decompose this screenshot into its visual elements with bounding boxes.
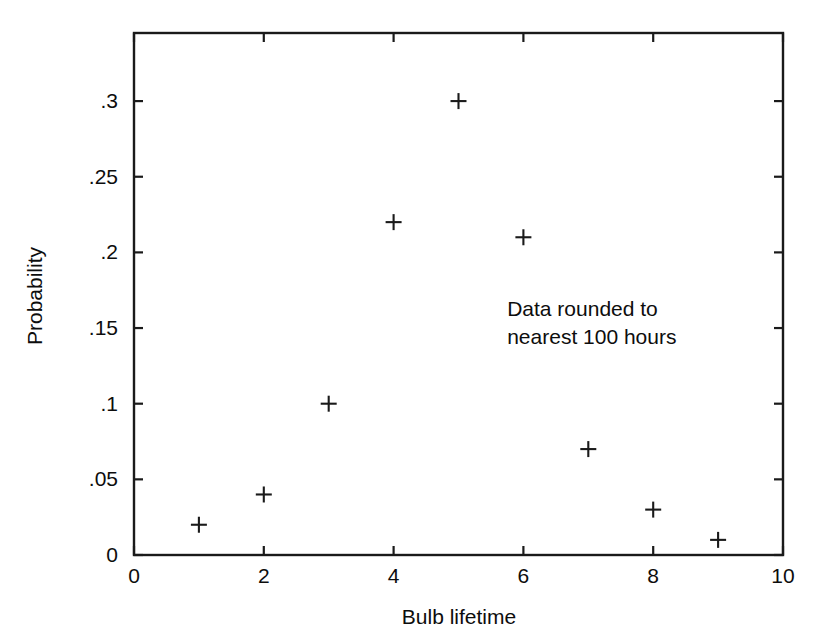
x-tick-label: 10 [771, 564, 794, 587]
annotation-line-2: nearest 100 hours [507, 325, 676, 348]
x-axis-title: Bulb lifetime [402, 605, 516, 628]
y-tick-label: .1 [100, 392, 118, 415]
y-axis-title: Probability [23, 246, 46, 345]
x-tick-label: 4 [388, 564, 400, 587]
y-tick-label: .25 [89, 165, 118, 188]
x-tick-label: 2 [258, 564, 270, 587]
x-tick-label: 0 [128, 564, 140, 587]
y-tick-label: .3 [100, 89, 118, 112]
x-tick-label: 6 [518, 564, 530, 587]
figure-background [0, 0, 829, 633]
y-tick-label: .05 [89, 467, 118, 490]
y-tick-label: .15 [89, 316, 118, 339]
y-tick-label: .2 [100, 240, 118, 263]
annotation-line-1: Data rounded to [507, 297, 658, 320]
y-tick-label: 0 [106, 543, 118, 566]
scatter-plot: 0246810 0.05.1.15.2.25.3 Bulb lifetime P… [0, 0, 829, 633]
chart-figure: 0246810 0.05.1.15.2.25.3 Bulb lifetime P… [0, 0, 829, 633]
x-tick-label: 8 [647, 564, 659, 587]
